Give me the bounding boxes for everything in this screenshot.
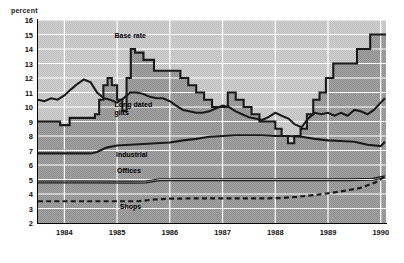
- y-axis-tick-label: 4: [11, 190, 33, 199]
- x-axis-tick-label: 1985: [97, 228, 137, 237]
- y-axis-tick-label: 6: [11, 161, 33, 170]
- series-label-offices: Offices: [117, 167, 141, 175]
- y-axis-tick-label: 12: [11, 74, 33, 83]
- chart-svg: [38, 20, 386, 223]
- x-axis-tick-label: 1988: [255, 228, 295, 237]
- x-axis-line: [37, 223, 387, 224]
- y-axis-tick-label: 16: [11, 16, 33, 25]
- x-axis-tick-label: 1987: [203, 228, 243, 237]
- y-axis-tick-label: 13: [11, 60, 33, 69]
- y-axis-tick-label: 9: [11, 118, 33, 127]
- y-axis-tick-label: 7: [11, 147, 33, 156]
- series-label-shops: Shops: [120, 203, 141, 211]
- series-label-industrial: Industrial: [116, 151, 148, 159]
- x-axis-tick-label: 1989: [308, 228, 348, 237]
- y-axis-tick-label: 14: [11, 45, 33, 54]
- x-axis-tick-label: 1990: [361, 228, 401, 237]
- y-axis-unit-label: percent: [11, 7, 38, 14]
- y-axis-tick-label: 3: [11, 205, 33, 214]
- y-axis-tick-label: 5: [11, 176, 33, 185]
- series-label-base-rate: Base rate: [114, 32, 146, 40]
- y-axis-tick-label: 2: [11, 219, 33, 228]
- x-axis-tick-label: 1986: [150, 228, 190, 237]
- x-axis-tick-label: 1984: [44, 228, 84, 237]
- y-axis-tick-label: 15: [11, 31, 33, 40]
- y-axis-tick-label: 8: [11, 132, 33, 141]
- chart-container: percent 1615141312111098765432 198419851…: [0, 0, 404, 263]
- plot-area: [38, 20, 386, 223]
- series-label-long-dated: Long dated gilts: [114, 101, 152, 116]
- y-axis-tick-label: 11: [11, 89, 33, 98]
- y-axis-tick-label: 10: [11, 103, 33, 112]
